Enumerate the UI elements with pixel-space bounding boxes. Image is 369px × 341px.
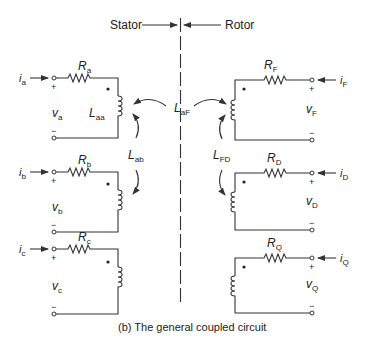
minus-sign: − [309,218,314,228]
curved-arrow-icon [134,99,166,106]
plus-sign: + [309,177,314,187]
curved-arrow-icon [220,115,225,139]
rotor-label: Rotor [225,18,254,32]
plus-sign: + [51,253,56,263]
resistor-icon [235,254,310,276]
terminal-icon [310,228,314,232]
figure-caption: (b) The general coupled circuit [118,321,266,333]
current-label-ic: ic [19,243,25,258]
resistor-label-rd: RD [267,151,282,167]
current-label-if: iF [340,74,347,89]
terminal-icon [310,311,314,315]
rotor-circuit-d: + − iD RD vD [231,151,348,232]
polarity-dot-icon [242,180,245,183]
voltage-label-vb: vb [52,200,63,216]
voltage-label-vd: vD [306,194,318,210]
voltage-label-va: va [52,106,63,122]
terminal-icon [52,230,56,234]
resistor-label-rf: RF [264,58,278,74]
terminal-icon [52,312,56,316]
terminal-icon [52,136,56,140]
curved-arrow-icon [133,114,138,138]
rotor-circuit-f: + − iF RF vF [231,58,347,142]
resistor-icon [56,168,118,190]
current-label-iq: iQ [340,252,349,267]
mutual-inductance-lfd: LFD [213,115,231,195]
terminal-icon [310,78,314,82]
rotor-circuit-q: + − iQ RQ vQ [231,236,349,315]
inductor-coil-icon [231,192,310,230]
lfd-label: LFD [213,148,231,164]
terminal-icon [52,76,56,80]
terminal-icon [52,247,56,251]
polarity-dot-icon [106,260,109,263]
curved-arrow-icon [194,99,226,106]
inductor-coil-icon [231,276,310,313]
voltage-label-vf: vF [306,102,317,118]
resistor-icon [235,169,310,192]
resistor-icon [235,76,310,100]
mutual-inductance-lab: Lab [128,114,144,194]
lab-label: Lab [128,148,144,164]
plus-sign: + [309,262,314,272]
voltage-label-vc: vc [52,279,62,295]
stator-label: Stator [110,18,142,32]
current-label-ia: ia [19,72,26,87]
coupled-circuit-diagram: Stator Rotor ia + − Ra va Laa ib + − Rb … [0,0,369,341]
resistor-icon [56,74,118,96]
curved-arrow-icon [220,170,225,195]
minus-sign: − [51,220,56,230]
resistor-icon [56,245,118,267]
resistor-label-rq: RQ [267,236,282,252]
plus-sign: + [51,176,56,186]
polarity-dot-icon [242,265,245,268]
polarity-dot-icon [106,182,109,185]
current-label-ib: ib [19,166,26,181]
mutual-inductance-laf: LaF [134,99,226,117]
minus-sign: − [309,301,314,311]
current-label-id: iD [340,167,348,182]
terminal-icon [310,171,314,175]
polarity-dot-icon [242,87,245,90]
voltage-label-vq: vQ [306,277,318,293]
minus-sign: − [309,128,314,138]
resistor-label-rb: Rb [78,153,92,169]
stator-circuit-c: ic + − Rc vc [19,230,122,316]
resistor-label-ra: Ra [78,59,92,75]
plus-sign: + [51,82,56,92]
inductor-coil-icon [231,100,310,140]
stator-circuit-a: ia + − Ra va Laa [19,59,122,140]
header: Stator Rotor [110,18,254,32]
inductor-coil-icon [56,190,122,232]
minus-sign: − [51,302,56,312]
polarity-dot-icon [106,87,109,90]
terminal-icon [52,170,56,174]
plus-sign: + [309,84,314,94]
stator-circuit-b: ib + − Rb vb [19,153,122,234]
inductor-label-laa: Laa [89,106,105,122]
terminal-icon [310,138,314,142]
minus-sign: − [51,126,56,136]
terminal-icon [310,256,314,260]
laf-label: LaF [174,101,190,117]
curved-arrow-icon [133,170,138,194]
inductor-coil-icon [56,267,122,314]
